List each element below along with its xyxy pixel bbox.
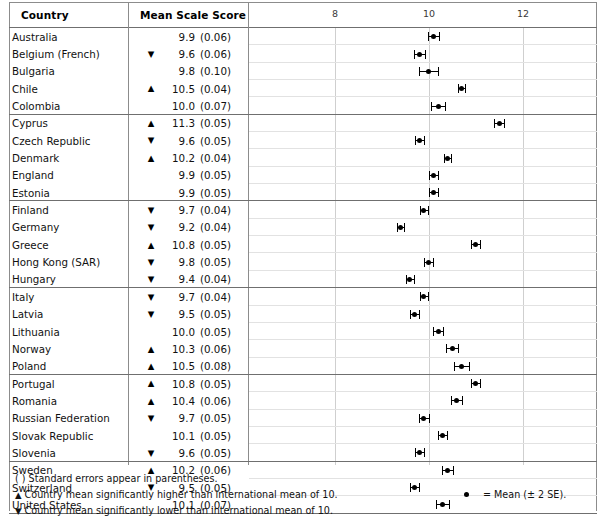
mean-marker bbox=[417, 450, 422, 455]
cell-standard-error: (0.05) bbox=[200, 375, 248, 392]
table-row: Hong Kong (SAR)▼9.8(0.05) bbox=[9, 253, 597, 270]
cell-mean-score: 10.8 bbox=[161, 236, 195, 253]
significance-blank bbox=[140, 184, 162, 201]
error-bar-cap-low bbox=[415, 448, 416, 457]
cell-standard-error: (0.05) bbox=[200, 444, 248, 461]
cell-country: Estonia bbox=[12, 184, 128, 201]
mean-marker bbox=[431, 34, 436, 39]
error-bar-cap-high bbox=[480, 379, 481, 388]
cell-country: Norway bbox=[12, 340, 128, 357]
plot-cell bbox=[258, 375, 597, 392]
mean-marker bbox=[421, 416, 426, 421]
down-triangle-icon: ▼ bbox=[140, 306, 162, 323]
mean-marker bbox=[417, 52, 422, 57]
plot-cell bbox=[258, 80, 597, 97]
legend-label: = Mean (± 2 SE). bbox=[483, 489, 566, 500]
cell-standard-error: (0.06) bbox=[200, 28, 248, 45]
error-bar-cap-low bbox=[428, 32, 429, 41]
mean-marker bbox=[407, 277, 412, 282]
mean-marker bbox=[473, 242, 478, 247]
plot-cell bbox=[258, 427, 597, 444]
plot-cell bbox=[258, 201, 597, 218]
cell-mean-score: 9.9 bbox=[161, 184, 195, 201]
plot-cell bbox=[258, 340, 597, 357]
up-triangle-icon: ▲ bbox=[140, 149, 162, 166]
footnote-higher-text: Country mean significantly higher than i… bbox=[22, 489, 338, 500]
cell-mean-score: 9.6 bbox=[161, 444, 195, 461]
cell-country: Portugal bbox=[12, 375, 128, 392]
up-triangle-icon: ▲ bbox=[140, 340, 162, 357]
table-row: Norway▲10.3(0.06) bbox=[9, 340, 597, 357]
mean-marker bbox=[436, 104, 441, 109]
cell-standard-error: (0.06) bbox=[200, 45, 248, 62]
error-bar-cap-high bbox=[451, 154, 452, 163]
down-triangle-icon: ▼ bbox=[140, 132, 162, 149]
mean-marker bbox=[454, 398, 459, 403]
error-bar-cap-high bbox=[447, 431, 448, 440]
error-bar-cap-high bbox=[443, 327, 444, 336]
error-bar-cap-low bbox=[431, 102, 432, 111]
down-triangle-icon: ▼ bbox=[140, 410, 162, 427]
up-triangle-icon: ▲ bbox=[140, 80, 162, 97]
cell-country: Lithuania bbox=[12, 323, 128, 340]
up-triangle-icon: ▲ bbox=[140, 236, 162, 253]
cell-country: Belgium (French) bbox=[12, 45, 128, 62]
cell-mean-score: 9.9 bbox=[161, 28, 195, 45]
error-bar-cap-low bbox=[438, 431, 439, 440]
plot-cell bbox=[258, 410, 597, 427]
cell-country: Slovak Republic bbox=[12, 427, 128, 444]
cell-standard-error: (0.04) bbox=[200, 80, 248, 97]
mean-marker bbox=[431, 173, 436, 178]
mean-marker bbox=[473, 381, 478, 386]
cell-mean-score: 10.0 bbox=[161, 323, 195, 340]
plot-cell bbox=[258, 63, 597, 80]
error-bar-cap-high bbox=[458, 344, 459, 353]
error-bar-cap-high bbox=[438, 171, 439, 180]
column-header-country: Country bbox=[21, 2, 69, 28]
error-bar-cap-high bbox=[425, 50, 426, 59]
plot-cell bbox=[258, 271, 597, 288]
mean-marker bbox=[459, 364, 464, 369]
cell-mean-score: 10.0 bbox=[161, 97, 195, 114]
table-row: Cyprus▲11.3(0.05) bbox=[9, 115, 597, 132]
cell-standard-error: (0.07) bbox=[200, 97, 248, 114]
error-bar-cap-low bbox=[419, 67, 420, 76]
plot-cell bbox=[258, 444, 597, 461]
cell-mean-score: 9.7 bbox=[161, 288, 195, 305]
cell-standard-error: (0.05) bbox=[200, 167, 248, 184]
cell-standard-error: (0.06) bbox=[200, 392, 248, 409]
table-row: Romania▲10.4(0.06) bbox=[9, 392, 597, 409]
figure-footnotes: ( ) Standard errors appear in parenthese… bbox=[9, 466, 597, 513]
plot-cell bbox=[258, 97, 597, 114]
cell-standard-error: (0.06) bbox=[200, 340, 248, 357]
plot-cell bbox=[258, 167, 597, 184]
cell-mean-score: 9.8 bbox=[161, 253, 195, 270]
plot-cell bbox=[258, 358, 597, 375]
mean-marker bbox=[450, 346, 455, 351]
plot-cell bbox=[258, 28, 597, 45]
error-bar-cap-high bbox=[504, 119, 505, 128]
cell-country: Hungary bbox=[12, 271, 128, 288]
cell-standard-error: (0.05) bbox=[200, 306, 248, 323]
error-bar-cap-high bbox=[419, 310, 420, 319]
cell-mean-score: 9.9 bbox=[161, 167, 195, 184]
up-triangle-icon: ▲ bbox=[140, 115, 162, 132]
mean-marker bbox=[459, 86, 464, 91]
cell-standard-error: (0.04) bbox=[200, 219, 248, 236]
error-bar-cap-low bbox=[410, 310, 411, 319]
cell-country: Germany bbox=[12, 219, 128, 236]
cell-mean-score: 10.1 bbox=[161, 427, 195, 444]
cell-standard-error: (0.05) bbox=[200, 132, 248, 149]
cell-standard-error: (0.04) bbox=[200, 149, 248, 166]
footnote-lower-text: Country mean significantly lower than in… bbox=[22, 505, 333, 516]
down-triangle-icon: ▼ bbox=[140, 253, 162, 270]
cell-country: Czech Republic bbox=[12, 132, 128, 149]
cell-country: Chile bbox=[12, 80, 128, 97]
axis-tick-12: 12 bbox=[517, 8, 529, 19]
down-triangle-icon: ▼ bbox=[140, 288, 162, 305]
error-bar-cap-high bbox=[429, 414, 430, 423]
cell-mean-score: 9.8 bbox=[161, 63, 195, 80]
plot-cell bbox=[258, 236, 597, 253]
table-row: Colombia10.0(0.07) bbox=[9, 97, 597, 114]
cell-mean-score: 11.3 bbox=[161, 115, 195, 132]
